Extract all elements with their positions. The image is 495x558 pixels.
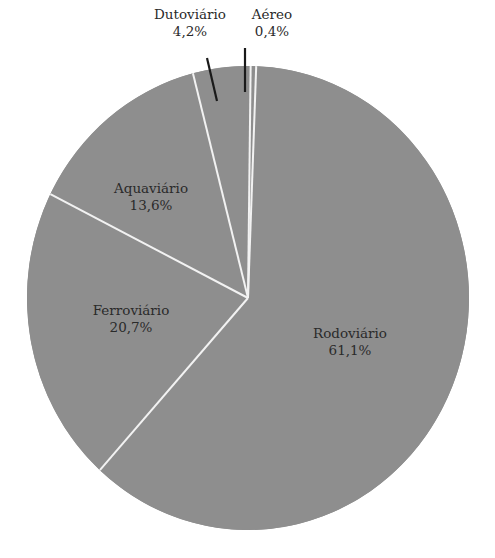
label-aereo-name: Aéreo — [252, 6, 292, 23]
label-aquaviario: Aquaviário 13,6% — [114, 180, 188, 214]
pie-chart — [0, 0, 495, 558]
label-rodoviario: Rodoviário 61,1% — [313, 325, 387, 359]
label-dutoviario: Dutoviário 4,2% — [154, 6, 226, 40]
label-ferroviario-pct: 20,7% — [93, 319, 170, 336]
label-ferroviario: Ferroviário 20,7% — [93, 302, 170, 336]
label-ferroviario-name: Ferroviário — [93, 302, 170, 319]
label-dutoviario-pct: 4,2% — [154, 23, 226, 40]
label-aereo: Aéreo 0,4% — [252, 6, 292, 40]
label-rodoviario-pct: 61,1% — [313, 342, 387, 359]
label-aquaviario-pct: 13,6% — [114, 197, 188, 214]
label-dutoviario-name: Dutoviário — [154, 6, 226, 23]
label-aereo-pct: 0,4% — [252, 23, 292, 40]
label-aquaviario-name: Aquaviário — [114, 180, 188, 197]
label-rodoviario-name: Rodoviário — [313, 325, 387, 342]
